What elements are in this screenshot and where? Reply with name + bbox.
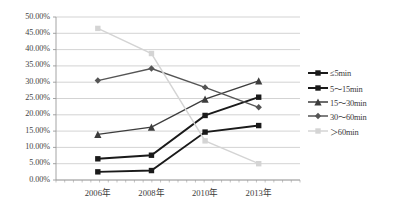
gridlines <box>56 17 300 180</box>
legend-marker <box>307 67 329 79</box>
legend-item-2[interactable]: 5～15min <box>307 80 397 94</box>
x-axis-tick-label: 2008年 <box>121 186 181 198</box>
legend-point-marker <box>315 128 320 133</box>
data-point-marker <box>202 138 207 143</box>
legend-label: 5～15min <box>330 82 363 94</box>
legend-marker <box>307 82 329 94</box>
data-point-marker <box>256 123 261 128</box>
data-point-marker <box>95 26 100 31</box>
y-axis-tick-label: 20.00% <box>0 109 50 118</box>
data-point-marker <box>95 169 100 174</box>
y-axis-tick-label: 0.00% <box>0 175 50 184</box>
x-axis-tick-label: 2013年 <box>229 186 289 198</box>
data-point-marker <box>95 156 100 161</box>
series-line <box>98 81 259 134</box>
data-point-marker <box>202 84 208 90</box>
y-axis-tick-label: 10.00% <box>0 142 50 151</box>
legend-marker <box>307 110 329 122</box>
y-axis-tick-label: 50.00% <box>0 12 50 21</box>
data-point-marker <box>149 168 154 173</box>
legend-marker <box>307 96 329 108</box>
legend-item-4[interactable]: 30～60min <box>307 109 397 123</box>
series-line <box>98 126 259 172</box>
data-point-marker <box>256 104 262 110</box>
data-point-marker <box>202 129 207 134</box>
series-line <box>98 69 259 108</box>
data-point-marker <box>256 161 261 166</box>
legend-label: 30～60min <box>330 110 367 122</box>
legend-label: ＞60min <box>330 125 359 137</box>
legend-item-1[interactable]: ≤5min <box>307 66 397 80</box>
y-axis-tick-label: 45.00% <box>0 28 50 37</box>
y-axis-tick-label: 5.00% <box>0 158 50 167</box>
y-axis-tick-label: 25.00% <box>0 93 50 102</box>
data-point-marker <box>201 96 208 103</box>
data-point-marker <box>149 153 154 158</box>
y-axis-tick-label: 30.00% <box>0 77 50 86</box>
y-axis-tick-label: 40.00% <box>0 44 50 53</box>
legend-point-marker <box>315 70 320 75</box>
y-axis-tick-label: 35.00% <box>0 60 50 69</box>
data-point-marker <box>256 94 261 99</box>
legend-item-5[interactable]: ＞60min <box>307 124 397 138</box>
line-chart: 0.00%5.00%10.00%15.00%20.00%25.00%30.00%… <box>0 0 398 215</box>
series-1 <box>95 123 261 175</box>
data-point-marker <box>255 77 262 84</box>
legend-label: 15～30min <box>330 96 367 108</box>
data-series-layer <box>94 26 262 175</box>
data-point-marker <box>95 77 101 83</box>
legend-point-marker <box>315 85 320 90</box>
series-5 <box>95 26 261 167</box>
y-axis-tick-label: 15.00% <box>0 126 50 135</box>
series-line <box>98 28 259 163</box>
data-point-marker <box>202 113 207 118</box>
x-axis-tick-label: 2010年 <box>175 186 235 198</box>
legend-label: ≤5min <box>330 69 351 78</box>
legend: ≤5min5～15min15～30min30～60min＞60min <box>307 66 397 138</box>
legend-point-marker <box>315 113 321 119</box>
legend-item-3[interactable]: 15～30min <box>307 95 397 109</box>
legend-marker <box>307 125 329 137</box>
data-point-marker <box>149 51 154 56</box>
x-axis-tick-label: 2006年 <box>68 186 128 198</box>
